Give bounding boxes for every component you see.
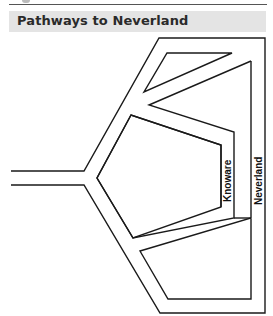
knoware-island bbox=[97, 115, 221, 238]
upper-triangle-island bbox=[144, 53, 232, 92]
knoware-label: Knoware bbox=[222, 159, 233, 202]
pathways-diagram: Knoware Neverland bbox=[0, 0, 273, 316]
neverland-label: Neverland bbox=[253, 157, 264, 205]
arrow-island-edge bbox=[97, 61, 251, 238]
